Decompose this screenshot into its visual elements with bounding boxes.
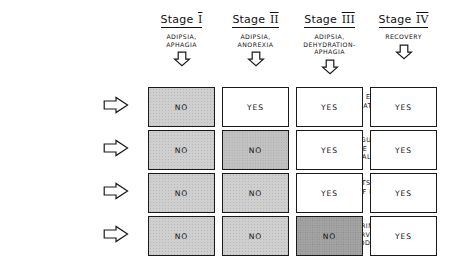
matrix-cell-r1-c3: YES bbox=[296, 87, 363, 127]
column-header-stage-1: Stage IADIPSIA, APHAGIA bbox=[147, 8, 217, 67]
down-arrow-icon bbox=[295, 59, 365, 75]
matrix-cell-r1-c2: YES bbox=[222, 87, 289, 127]
down-arrow-glyph bbox=[247, 51, 265, 67]
matrix-cell-r4-c1: NO bbox=[148, 216, 215, 256]
matrix-cell-r4-c2: NO bbox=[222, 216, 289, 256]
stage-numeral: I bbox=[197, 13, 202, 26]
cell-value: NO bbox=[175, 146, 188, 155]
down-arrow-icon bbox=[147, 51, 217, 67]
cell-value: NO bbox=[175, 103, 188, 112]
cell-value: YES bbox=[395, 103, 412, 112]
cell-value: YES bbox=[247, 103, 264, 112]
stage-symptoms: RECOVERY bbox=[369, 33, 439, 41]
matrix-cell-r4-c3: NO bbox=[296, 216, 363, 256]
stage-numeral: III bbox=[341, 13, 355, 26]
matrix-cell-r2-c2: NO bbox=[222, 130, 289, 170]
stage-label: Stage bbox=[232, 13, 265, 26]
down-arrow-icon bbox=[221, 51, 291, 67]
right-arrow-icon bbox=[103, 96, 129, 118]
cell-value: YES bbox=[395, 146, 412, 155]
cell-value: NO bbox=[249, 146, 262, 155]
matrix-cell-r2-c4: YES bbox=[370, 130, 437, 170]
matrix-cell-r2-c3: YES bbox=[296, 130, 363, 170]
cell-value: NO bbox=[175, 189, 188, 198]
stage-label: Stage bbox=[304, 13, 337, 26]
matrix-cell-r1-c1: NO bbox=[148, 87, 215, 127]
column-header-stage-2: Stage IIADIPSIA, ANOREXIA bbox=[221, 8, 291, 67]
right-arrow-icon bbox=[103, 139, 129, 161]
down-arrow-glyph bbox=[321, 59, 339, 75]
cell-value: YES bbox=[321, 189, 338, 198]
stage-symptoms: ADIPSIA, APHAGIA bbox=[147, 33, 217, 48]
down-arrow-glyph bbox=[173, 51, 191, 67]
matrix-cell-r2-c1: NO bbox=[148, 130, 215, 170]
matrix-cell-r4-c4: YES bbox=[370, 216, 437, 256]
stage-title: Stage I bbox=[161, 13, 203, 28]
stage-symptoms: ADIPSIA, DEHYDRATION- APHAGIA bbox=[295, 33, 365, 56]
cell-value: YES bbox=[395, 189, 412, 198]
stage-numeral: II bbox=[269, 13, 279, 26]
right-arrow-glyph bbox=[103, 96, 129, 114]
matrix-cell-r3-c1: NO bbox=[148, 173, 215, 213]
stage-matrix-figure: Stage IADIPSIA, APHAGIAStage IIADIPSIA, … bbox=[0, 0, 450, 265]
stage-label: Stage bbox=[379, 13, 412, 26]
down-arrow-icon bbox=[369, 44, 439, 60]
cell-value: YES bbox=[321, 103, 338, 112]
cell-value: NO bbox=[323, 232, 336, 241]
stage-symptoms: ADIPSIA, ANOREXIA bbox=[221, 33, 291, 48]
stage-title: Stage IV bbox=[379, 13, 429, 28]
right-arrow-glyph bbox=[103, 139, 129, 157]
stage-label: Stage bbox=[161, 13, 194, 26]
matrix-cell-r3-c3: YES bbox=[296, 173, 363, 213]
right-arrow-icon bbox=[103, 182, 129, 204]
column-header-stage-4: Stage IVRECOVERY bbox=[369, 8, 439, 60]
matrix-cell-r3-c2: NO bbox=[222, 173, 289, 213]
cell-value: NO bbox=[249, 232, 262, 241]
cell-value: NO bbox=[249, 189, 262, 198]
matrix-cell-r3-c4: YES bbox=[370, 173, 437, 213]
stage-title: Stage III bbox=[304, 13, 355, 28]
right-arrow-glyph bbox=[103, 182, 129, 200]
down-arrow-glyph bbox=[395, 44, 413, 60]
right-arrow-glyph bbox=[103, 225, 129, 243]
cell-value: YES bbox=[395, 232, 412, 241]
matrix-cell-r1-c4: YES bbox=[370, 87, 437, 127]
stage-numeral: IV bbox=[415, 13, 428, 26]
cell-value: YES bbox=[321, 146, 338, 155]
right-arrow-icon bbox=[103, 225, 129, 247]
stage-title: Stage II bbox=[232, 13, 278, 28]
column-header-stage-3: Stage IIIADIPSIA, DEHYDRATION- APHAGIA bbox=[295, 8, 365, 75]
cell-value: NO bbox=[175, 232, 188, 241]
